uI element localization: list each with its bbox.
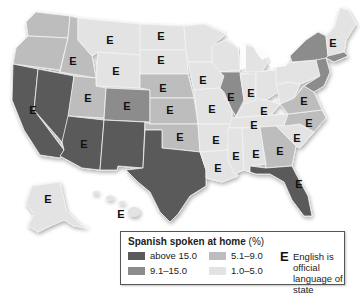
map-legend: Spanish spoken at home (%) above 15.0 9.… (120, 231, 345, 285)
e-marker-colorado: E (123, 100, 130, 112)
legend-swatch-9-15 (128, 267, 145, 275)
legend-e-symbol: E (280, 249, 289, 264)
e-marker-arizona: E (80, 138, 87, 150)
e-marker-iowa: E (199, 74, 206, 86)
legend-title-unit: (%) (249, 236, 265, 247)
e-marker-alaska: E (44, 193, 51, 205)
state-ohio (256, 70, 278, 100)
legend-title-text: Spanish spoken at home (128, 236, 246, 247)
e-marker-south-dakota: E (157, 54, 164, 66)
legend-e-line2: language of state (293, 273, 353, 294)
legend-label-above-15: above 15.0 (150, 250, 197, 261)
state-alaska (26, 182, 88, 232)
e-marker-new-england: E (329, 37, 336, 49)
legend-swatch-above-15 (128, 252, 145, 260)
legend-title: Spanish spoken at home (%) (128, 236, 264, 247)
legend-swatch-1-5 (209, 267, 226, 275)
legend-e-description: English is official language of state (293, 251, 353, 294)
e-marker-north-dakota: E (157, 30, 164, 42)
e-marker-indiana: E (247, 87, 254, 99)
state-new-mexico (100, 120, 145, 170)
e-marker-hawaii: E (117, 208, 124, 220)
e-marker-oklahoma: E (176, 131, 183, 143)
e-marker-georgia: E (276, 145, 283, 157)
state-washington (26, 12, 70, 38)
legend-label-1-5: 1.0–5.0 (231, 265, 263, 276)
e-marker-mississippi: E (232, 150, 239, 162)
e-marker-alabama: E (252, 148, 259, 160)
e-marker-arkansas: E (212, 134, 219, 146)
legend-swatch-5-9 (209, 252, 226, 260)
state-florida (250, 166, 312, 216)
state-oregon (13, 36, 68, 70)
e-marker-montana: E (106, 34, 113, 46)
e-marker-kentucky: E (260, 105, 267, 117)
legend-e-line1: English is official (293, 251, 353, 273)
e-marker-south-carolina: E (293, 132, 300, 144)
e-marker-virginia: E (300, 95, 307, 107)
e-marker-illinois: E (227, 91, 234, 103)
e-marker-idaho: E (69, 55, 76, 67)
legend-label-5-9: 5.1–9.0 (231, 250, 263, 261)
e-marker-florida: E (295, 178, 302, 190)
e-marker-wyoming: E (112, 65, 119, 77)
e-marker-louisiana: E (214, 162, 221, 174)
state-new-york (290, 32, 328, 62)
e-marker-kansas: E (166, 104, 173, 116)
state-kansas (150, 98, 198, 124)
e-marker-california: E (29, 104, 36, 116)
e-marker-missouri: E (208, 103, 215, 115)
legend-label-9-15: 9.1–15.0 (150, 265, 187, 276)
e-marker-nebraska: E (159, 82, 166, 94)
e-marker-utah: E (84, 92, 91, 104)
e-marker-tennessee: E (250, 119, 257, 131)
e-marker-north-carolina: E (305, 117, 312, 129)
